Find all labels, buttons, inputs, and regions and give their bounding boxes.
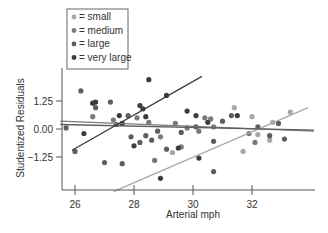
- data-point: [108, 100, 113, 105]
- data-point: [176, 145, 181, 150]
- data-point: [120, 161, 125, 166]
- data-point: [149, 138, 154, 143]
- data-point: [143, 133, 148, 138]
- y-axis-title: Studentized Residuals: [15, 78, 26, 178]
- data-point: [146, 77, 151, 82]
- data-point: [179, 130, 184, 135]
- data-point: [282, 137, 287, 142]
- data-point: [78, 88, 83, 93]
- data-point: [202, 115, 207, 120]
- y-tick-label: 1.25: [34, 96, 54, 107]
- data-point: [229, 113, 234, 118]
- data-point: [81, 131, 86, 136]
- data-point: [90, 101, 95, 106]
- x-axis-title: Arterial mph: [166, 209, 220, 220]
- data-point: [93, 105, 98, 110]
- x-ticks: 26283032: [69, 185, 258, 210]
- y-tick-label: −1.25: [28, 152, 54, 163]
- data-point: [134, 115, 139, 120]
- data-point: [267, 138, 272, 143]
- legend-marker: [72, 28, 77, 33]
- data-point: [249, 114, 254, 119]
- data-point: [102, 160, 107, 165]
- fit-lines: [60, 76, 314, 191]
- data-point: [152, 158, 157, 163]
- data-point: [232, 105, 237, 110]
- data-point: [241, 149, 246, 154]
- data-point: [158, 134, 163, 139]
- data-point: [90, 114, 95, 119]
- data-point: [64, 125, 69, 130]
- data-point: [211, 139, 216, 144]
- scatter-chart: 1.250.00−1.25 26283032 Studentized Resid…: [0, 0, 328, 233]
- data-point: [252, 140, 257, 145]
- data-point: [131, 143, 136, 148]
- data-point: [185, 109, 190, 114]
- data-point: [128, 134, 133, 139]
- data-point: [155, 129, 160, 134]
- legend-label: = medium: [79, 25, 123, 36]
- legend-label: = small: [79, 11, 111, 22]
- y-tick-label: 0.00: [34, 124, 54, 135]
- y-ticks: 1.250.00−1.25: [28, 96, 62, 163]
- data-point: [117, 113, 122, 118]
- data-point: [164, 147, 169, 152]
- legend-marker: [72, 15, 77, 20]
- x-tick-label: 26: [69, 199, 81, 210]
- fit-line-very-large: [72, 76, 202, 150]
- data-point: [211, 169, 216, 174]
- legend-marker: [72, 42, 77, 47]
- x-tick-label: 32: [246, 199, 258, 210]
- data-point: [267, 133, 272, 138]
- data-point: [196, 129, 201, 134]
- legend-marker: [72, 55, 77, 60]
- legend: = small= medium= large= very large: [67, 9, 132, 69]
- data-point: [137, 140, 142, 145]
- data-point: [170, 150, 175, 155]
- data-point: [111, 117, 116, 122]
- data-point: [235, 113, 240, 118]
- data-point: [205, 120, 210, 125]
- legend-label: = large: [79, 38, 110, 49]
- data-point: [143, 114, 148, 119]
- legend-label: = very large: [79, 52, 132, 63]
- data-point: [193, 113, 198, 118]
- x-tick-label: 28: [128, 199, 140, 210]
- data-point: [220, 119, 225, 124]
- data-point: [255, 132, 260, 137]
- data-point: [158, 176, 163, 181]
